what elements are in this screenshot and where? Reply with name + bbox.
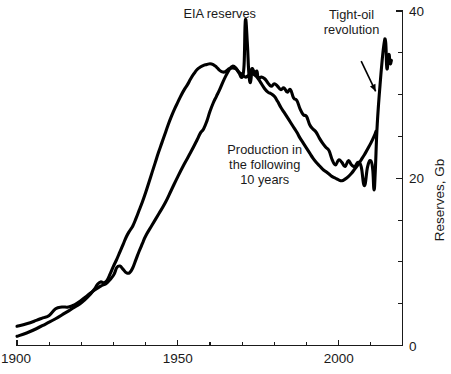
series-line-1 <box>17 64 376 337</box>
x-axis-tick-labels: 190019502000 <box>1 351 354 366</box>
chart-series-group <box>17 19 391 336</box>
eia-reserves-label: EIA reserves <box>183 6 256 21</box>
x-axis-tick-label: 1900 <box>1 351 31 366</box>
y-axis-tick-label: 20 <box>409 171 424 186</box>
x-axis-ticks <box>17 340 371 346</box>
tight-oil-revolution-label-line-1: revolution <box>324 22 380 37</box>
y-axis-tick-labels: 02040 <box>409 4 424 354</box>
production-following-10-years-label: Production inthe following10 years <box>227 142 302 187</box>
tight-oil-revolution-label-line-0: Tight-oil <box>329 7 374 22</box>
y-axis-tick-label: 0 <box>409 339 417 354</box>
y-axis-title: Reserves, Gb <box>432 159 447 242</box>
x-axis-tick-label: 1950 <box>163 351 193 366</box>
production-following-10-years-label-line-1: the following <box>229 157 300 172</box>
y-axis: 02040 Reserves, Gb <box>396 4 447 354</box>
x-axis-tick-label: 2000 <box>324 351 354 366</box>
tight-oil-revolution-label: Tight-oilrevolution <box>324 7 380 91</box>
chart-canvas: 190019502000 02040 Reserves, Gb EIA rese… <box>0 0 451 374</box>
production-following-10-years-label-line-2: 10 years <box>240 172 289 187</box>
reserves-chart: 190019502000 02040 Reserves, Gb EIA rese… <box>0 0 451 374</box>
production-following-10-years-label-line-0: Production in <box>227 142 302 157</box>
y-axis-tick-label: 40 <box>409 4 424 19</box>
x-axis: 190019502000 <box>1 340 403 366</box>
eia-reserves-label-line-0: EIA reserves <box>183 6 256 21</box>
